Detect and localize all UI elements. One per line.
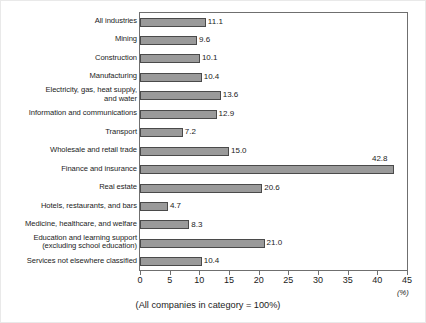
- bar: [140, 220, 189, 229]
- bar-value-label: 7.2: [185, 127, 196, 137]
- category-label: Transport: [0, 128, 137, 137]
- bar: [140, 257, 202, 266]
- bar: [140, 184, 262, 193]
- bar: [140, 54, 200, 63]
- category-label: Medicine, healthcare, and welfare: [0, 220, 137, 229]
- category-label: Information and communications: [0, 109, 137, 118]
- category-label: Mining: [0, 35, 137, 44]
- bar-value-label: 20.6: [264, 183, 280, 193]
- chart-note: (All companies in category = 100%): [1, 300, 415, 310]
- bar: [140, 239, 265, 248]
- bar-value-label: 15.0: [231, 146, 247, 156]
- category-label: Manufacturing: [0, 72, 137, 81]
- category-label: Construction: [0, 54, 137, 63]
- bar: [140, 73, 202, 82]
- bar: [140, 18, 206, 27]
- bar-value-label: 4.7: [170, 201, 181, 211]
- bar-row: Finance and insurance42.8: [1, 161, 426, 179]
- bar-value-label: 9.6: [199, 35, 210, 45]
- bar-value-label: 12.9: [219, 109, 235, 119]
- category-label: Real estate: [0, 183, 137, 192]
- bar-row: Hotels, restaurants, and bars4.7: [1, 198, 426, 216]
- bar-row: Real estate20.6: [1, 179, 426, 197]
- bar-row: Transport7.2: [1, 124, 426, 142]
- bar-row: Services not elsewhere classified10.4: [1, 253, 426, 271]
- bar-row: Information and communications12.9: [1, 105, 426, 123]
- bar: [140, 36, 197, 45]
- bar-row: Wholesale and retail trade15.0: [1, 142, 426, 160]
- x-axis-unit-label: (%): [397, 288, 409, 297]
- bar: [140, 147, 229, 156]
- category-label: Electricity, gas, heat supply, and water: [0, 86, 137, 103]
- bar-row: Mining9.6: [1, 31, 426, 49]
- bar: [140, 128, 183, 137]
- bar-row: All industries11.1: [1, 13, 426, 31]
- category-label: Finance and insurance: [0, 165, 137, 174]
- bar-row: Medicine, healthcare, and welfare8.3: [1, 216, 426, 234]
- category-label: Education and learning support (excludin…: [0, 234, 137, 251]
- category-label: Wholesale and retail trade: [0, 146, 137, 155]
- category-label: Hotels, restaurants, and bars: [0, 202, 137, 211]
- x-axis: 051015202530354045: [139, 271, 408, 301]
- bar-row: Manufacturing10.4: [1, 68, 426, 86]
- bar: [140, 110, 217, 119]
- category-label: Services not elsewhere classified: [0, 257, 137, 266]
- bar-row: Electricity, gas, heat supply, and water…: [1, 87, 426, 105]
- bar: [140, 91, 221, 100]
- bar-value-label: 10.4: [204, 72, 220, 82]
- bar-value-label: 42.8: [372, 154, 388, 164]
- bar-value-label: 10.1: [202, 53, 218, 63]
- bar-value-label: 21.0: [267, 238, 283, 248]
- bar: [140, 165, 394, 174]
- bar-value-label: 11.1: [208, 17, 223, 27]
- bar: [140, 202, 168, 211]
- category-label: All industries: [0, 17, 137, 26]
- x-axis-tick-label: 45: [387, 275, 426, 286]
- chart-figure: All industries11.1Mining9.6Construction1…: [0, 0, 426, 323]
- bar-row: Construction10.1: [1, 50, 426, 68]
- bar-value-label: 8.3: [191, 220, 202, 230]
- bar-row: Education and learning support (excludin…: [1, 234, 426, 252]
- bar-value-label: 13.6: [223, 90, 239, 100]
- bar-value-label: 10.4: [204, 256, 220, 266]
